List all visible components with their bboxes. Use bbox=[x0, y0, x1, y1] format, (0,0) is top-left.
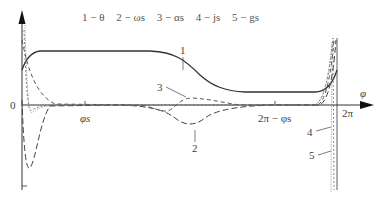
curve-label-4: 4 bbox=[307, 127, 313, 138]
curve-label-2: 2 bbox=[192, 143, 198, 154]
curve-1-theta bbox=[22, 51, 337, 92]
curve-label-1: 1 bbox=[180, 45, 186, 56]
x-axis-label: φ bbox=[360, 88, 366, 99]
chart-plot bbox=[0, 0, 380, 199]
legend-item-4: 4 − js bbox=[196, 11, 221, 23]
legend-item-2: 2 − ωs bbox=[116, 11, 145, 23]
tick-label-2pi: 2π bbox=[342, 108, 353, 119]
curve-5-g-s bbox=[25, 25, 332, 192]
legend: 1 − θ 2 − ωs 3 − αs 4 − js 5 − gs bbox=[82, 11, 268, 23]
legend-item-3: 3 − αs bbox=[157, 11, 184, 23]
tick-label-2pi-minus-phi-s: 2π − φs bbox=[258, 113, 291, 124]
curve-2-omega-s bbox=[22, 40, 336, 168]
legend-item-5: 5 − gs bbox=[232, 11, 259, 23]
y-axis-arrow-icon bbox=[19, 10, 26, 24]
x-axis-arrow-icon bbox=[360, 101, 374, 109]
tick-label-phi-s: φs bbox=[80, 113, 90, 124]
leader-lines bbox=[166, 57, 331, 155]
origin-label: 0 bbox=[10, 100, 16, 111]
legend-item-1: 1 − θ bbox=[82, 11, 104, 23]
curve-4-j-s bbox=[24, 30, 334, 190]
curve-label-5: 5 bbox=[309, 150, 315, 161]
axes bbox=[19, 10, 375, 190]
curve-label-3: 3 bbox=[157, 82, 163, 93]
